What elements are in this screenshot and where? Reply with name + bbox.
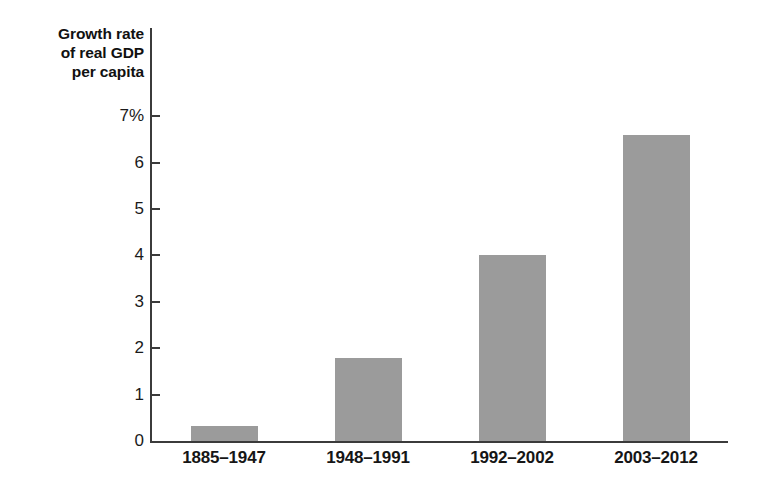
- y-tick-label: 4: [102, 246, 144, 263]
- y-tick-mark: [152, 208, 160, 210]
- bar: [479, 255, 546, 441]
- y-tick-mark: [152, 115, 160, 117]
- x-tick-label: 1992–2002: [432, 448, 592, 468]
- x-axis-line: [150, 441, 728, 443]
- x-tick-label: 2003–2012: [576, 448, 736, 468]
- y-tick-mark: [152, 301, 160, 303]
- y-tick-label: 6: [102, 154, 144, 171]
- x-tick-label: 1885–1947: [144, 448, 304, 468]
- y-axis-tick-labels: 7%6543210: [96, 0, 144, 493]
- x-axis-tick-labels: 1885–19471948–19911992–20022003–2012: [152, 448, 728, 478]
- y-tick-label: 7%: [102, 107, 144, 124]
- y-tick-label: 0: [102, 432, 144, 449]
- plot-area: [152, 28, 728, 441]
- y-tick-mark: [152, 394, 160, 396]
- bar: [623, 135, 690, 441]
- y-tick-label: 3: [102, 293, 144, 310]
- y-tick-label: 1: [102, 386, 144, 403]
- y-tick-label: 2: [102, 339, 144, 356]
- y-tick-mark: [152, 347, 160, 349]
- y-tick-mark: [152, 162, 160, 164]
- x-tick-label: 1948–1991: [288, 448, 448, 468]
- y-tick-label: 5: [102, 200, 144, 217]
- bar: [191, 426, 258, 441]
- bar-chart-figure: Growth rate of real GDP per capita 7%654…: [0, 0, 760, 493]
- y-tick-mark: [152, 254, 160, 256]
- bar: [335, 358, 402, 441]
